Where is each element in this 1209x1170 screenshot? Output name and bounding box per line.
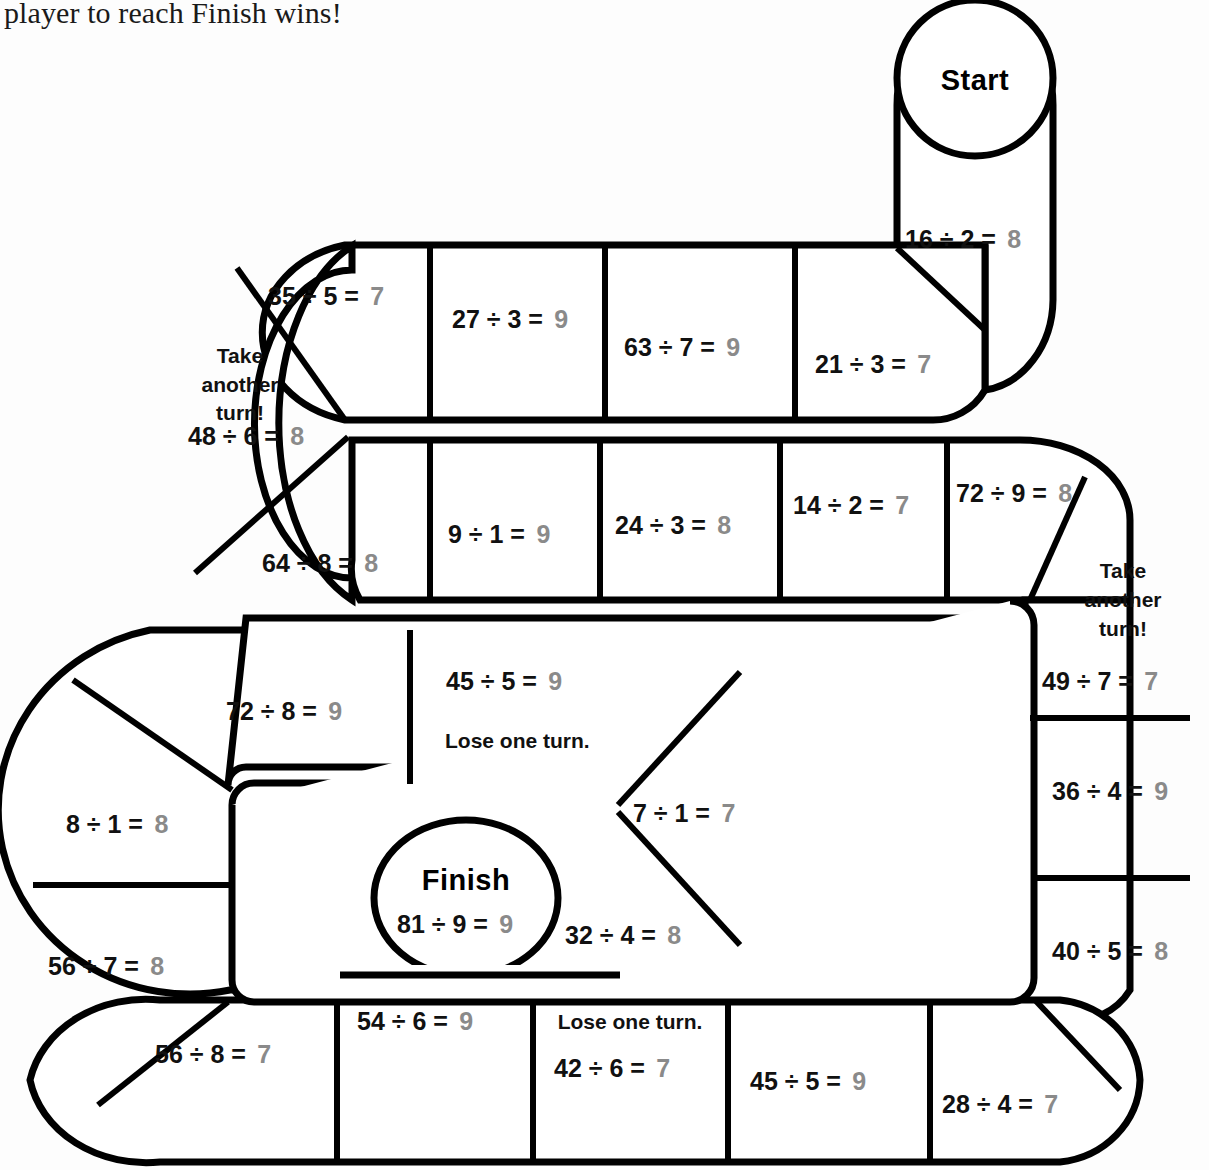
ans-24-3: 8 xyxy=(717,511,731,539)
ans-81-9: 9 xyxy=(499,910,513,938)
eq-14-2: 14 ÷ 2 = xyxy=(793,491,884,519)
eq-49-7: 49 ÷ 7 = xyxy=(1042,667,1133,695)
ans-40-5: 8 xyxy=(1154,937,1168,965)
eq-7-1: 7 ÷ 1 = xyxy=(633,799,710,827)
eq-45-5-b: 45 ÷ 5 = xyxy=(750,1067,841,1095)
eq-9-1: 9 ÷ 1 = xyxy=(448,520,525,548)
note-take-2c: turn! xyxy=(1099,617,1147,640)
note-take-2a: Take xyxy=(1100,559,1146,582)
ans-27-3: 9 xyxy=(554,305,568,333)
worksheet-page: player to reach Finish wins! xyxy=(0,0,1209,1170)
ans-14-2: 7 xyxy=(895,491,909,519)
ans-21-3: 7 xyxy=(917,350,931,378)
finish-oval[interactable] xyxy=(374,820,558,976)
eq-16-2: 16 ÷ 2 = xyxy=(905,225,996,253)
eq-64-8: 64 ÷ 8 = xyxy=(262,549,353,577)
note-lose-2: Lose one turn. xyxy=(558,1010,703,1033)
ans-56-7: 8 xyxy=(150,952,164,980)
note-take-1a: Take xyxy=(217,344,263,367)
eq-21-3: 21 ÷ 3 = xyxy=(815,350,906,378)
space-start[interactable]: Start xyxy=(941,64,1010,96)
space-36-div-4[interactable]: 36 ÷ 4 = 9 xyxy=(1052,777,1168,805)
ans-9-1: 9 xyxy=(536,520,550,548)
note-take-1b: another xyxy=(201,373,278,396)
board-game-graphic: Start 16 ÷ 2 = 8 21 ÷ 3 = 7 63 ÷ 7 = 9 xyxy=(0,0,1209,1170)
ans-45-5-b: 9 xyxy=(852,1067,866,1095)
eq-45-5-t: 45 ÷ 5 = xyxy=(446,667,537,695)
svg-text:40 ÷ 5 = 8: 40 ÷ 5 = 8 xyxy=(1052,937,1168,965)
ans-32-4: 8 xyxy=(667,921,681,949)
eq-42-6: 42 ÷ 6 = xyxy=(554,1054,645,1082)
svg-text:49 ÷ 7 = 7: 49 ÷ 7 = 7 xyxy=(1042,667,1158,695)
ans-28-4: 7 xyxy=(1044,1090,1058,1118)
svg-text:48 ÷ 6 = 8: 48 ÷ 6 = 8 xyxy=(188,422,304,450)
eq-32-4: 32 ÷ 4 = xyxy=(565,921,656,949)
ans-7-1: 7 xyxy=(721,799,735,827)
eq-56-8: 56 ÷ 8 = xyxy=(155,1040,246,1068)
eq-28-4: 28 ÷ 4 = xyxy=(942,1090,1033,1118)
finish-label: Finish xyxy=(422,864,510,896)
ans-56-8: 7 xyxy=(257,1040,271,1068)
ans-42-6: 7 xyxy=(656,1054,670,1082)
eq-56-7: 56 ÷ 7 = xyxy=(48,952,139,980)
ans-35-5: 7 xyxy=(370,282,384,310)
ans-36-4: 9 xyxy=(1154,777,1168,805)
eq-35-5: 35 ÷ 5 = xyxy=(268,282,359,310)
ans-54-6: 9 xyxy=(459,1007,473,1035)
eq-54-6: 54 ÷ 6 = xyxy=(357,1007,448,1035)
space-40-div-5[interactable]: 40 ÷ 5 = 8 xyxy=(1052,937,1168,965)
ans-45-5-t: 9 xyxy=(548,667,562,695)
note-take-1c: turn! xyxy=(216,401,264,424)
eq-27-3: 27 ÷ 3 = xyxy=(452,305,543,333)
ans-49-7: 7 xyxy=(1144,667,1158,695)
eq-81-9: 81 ÷ 9 = xyxy=(397,910,488,938)
svg-text:36 ÷ 4 = 9: 36 ÷ 4 = 9 xyxy=(1052,777,1168,805)
ans-48-6: 8 xyxy=(290,422,304,450)
ans-64-8: 8 xyxy=(364,549,378,577)
note-take-2b: another xyxy=(1084,588,1161,611)
eq-48-6: 48 ÷ 6 = xyxy=(188,422,279,450)
eq-63-7: 63 ÷ 7 = xyxy=(624,333,715,361)
eq-36-4: 36 ÷ 4 = xyxy=(1052,777,1143,805)
eq-72-9: 72 ÷ 9 = xyxy=(956,479,1047,507)
eq-24-3: 24 ÷ 3 = xyxy=(615,511,706,539)
eq-8-1: 8 ÷ 1 = xyxy=(66,810,143,838)
note-lose-1: Lose one turn. xyxy=(445,729,590,752)
eq-40-5: 40 ÷ 5 = xyxy=(1052,937,1143,965)
ans-8-1: 8 xyxy=(154,810,168,838)
eq-72-8: 72 ÷ 8 = xyxy=(226,697,317,725)
ans-72-9: 8 xyxy=(1058,479,1072,507)
ans-16-2: 8 xyxy=(1007,225,1021,253)
ans-72-8: 9 xyxy=(328,697,342,725)
ans-63-7: 9 xyxy=(726,333,740,361)
start-label: Start xyxy=(941,64,1010,96)
